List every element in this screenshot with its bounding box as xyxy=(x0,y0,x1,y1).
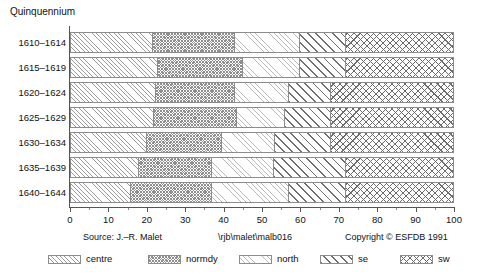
x-tick-minor xyxy=(243,208,244,210)
x-tick-major xyxy=(300,208,301,212)
chart-footer: Source: J.–R. Malet \rjb\malet\malb016 C… xyxy=(0,230,477,244)
bar-row xyxy=(70,157,454,178)
x-tick-minor xyxy=(320,208,321,210)
footer-file-path: \rjb\malet\malb016 xyxy=(218,230,292,244)
bar-segment-sw xyxy=(331,82,454,103)
bar-segment-centre xyxy=(70,32,153,53)
x-tick-label: 20 xyxy=(142,214,153,225)
bar-segment-normdy xyxy=(139,157,212,178)
bar-segment-se xyxy=(275,132,331,153)
bar-segment-normdy xyxy=(156,82,235,103)
x-tick-major xyxy=(108,208,109,212)
north-swatch-icon xyxy=(239,255,272,264)
bar-segment-north xyxy=(222,132,276,153)
footer-copyright: Copyright © ESFDB 1991 xyxy=(345,230,448,244)
x-tick-label: 40 xyxy=(218,214,229,225)
x-tick-major xyxy=(185,208,186,212)
y-axis-labels: 1610–16141615–16191620–16241625–16291630… xyxy=(0,30,66,205)
x-tick-label: 60 xyxy=(295,214,306,225)
x-tick-minor xyxy=(166,208,167,210)
bar-row xyxy=(70,107,454,128)
bar-segment-centre xyxy=(70,157,139,178)
bar-segment-centre xyxy=(70,82,156,103)
x-tick-label: 30 xyxy=(180,214,191,225)
bar-segment-sw xyxy=(331,107,454,128)
y-axis-label: 1640–1644 xyxy=(2,188,66,198)
centre-swatch-icon xyxy=(48,255,81,264)
y-axis-label: 1630–1634 xyxy=(2,138,66,148)
bar-row xyxy=(70,32,454,53)
legend-entry-centre[interactable]: centre xyxy=(48,253,112,265)
bar-segment-normdy xyxy=(158,57,242,78)
chart-title: Quinquennium xyxy=(10,6,75,18)
bar-segment-sw xyxy=(346,182,454,203)
bar-row xyxy=(70,182,454,203)
stacked-bar-chart: Quinquennium 1610–16141615–16191620–1624… xyxy=(0,0,477,276)
x-tick-major xyxy=(70,208,71,212)
x-tick-label: 70 xyxy=(334,214,345,225)
y-axis-label: 1610–1614 xyxy=(2,38,66,48)
legend-entry-sw[interactable]: sw xyxy=(400,253,450,265)
y-axis-label: 1615–1619 xyxy=(2,63,66,73)
x-tick-minor xyxy=(435,208,436,210)
bar-segment-se xyxy=(300,57,346,78)
y-axis-label: 1620–1624 xyxy=(2,88,66,98)
x-tick-label: 10 xyxy=(103,214,114,225)
bar-segment-sw xyxy=(346,157,454,178)
bar-segment-centre xyxy=(70,132,147,153)
x-tick-major xyxy=(377,208,378,212)
bar-row xyxy=(70,57,454,78)
bar-segment-north xyxy=(212,157,273,178)
bar-segment-north xyxy=(243,57,301,78)
bar-segment-se xyxy=(289,82,331,103)
x-tick-major xyxy=(339,208,340,212)
x-tick-minor xyxy=(281,208,282,210)
bar-segment-normdy xyxy=(154,107,237,128)
x-tick-major xyxy=(416,208,417,212)
bar-segment-normdy xyxy=(153,32,236,53)
bar-segment-se xyxy=(289,182,347,203)
legend-entry-north[interactable]: north xyxy=(239,253,299,265)
bar-segment-se xyxy=(285,107,331,128)
x-tick-major xyxy=(224,208,225,212)
legend-label: sw xyxy=(438,253,450,265)
x-tick-minor xyxy=(358,208,359,210)
bar-segment-north xyxy=(235,32,300,53)
bar-segment-se xyxy=(300,32,346,53)
bar-row xyxy=(70,132,454,153)
legend-label: centre xyxy=(86,253,112,265)
x-axis-tick-labels: 0102030405060708090100 xyxy=(0,214,477,226)
x-tick-label: 80 xyxy=(372,214,383,225)
x-tick-label: 50 xyxy=(257,214,268,225)
legend-label: normdy xyxy=(186,253,218,265)
bar-segment-se xyxy=(274,157,347,178)
se-swatch-icon xyxy=(320,255,353,264)
bar-segment-north xyxy=(237,107,285,128)
x-tick-minor xyxy=(128,208,129,210)
bar-segment-north xyxy=(212,182,289,203)
bar-segment-sw xyxy=(346,57,454,78)
x-tick-label: 100 xyxy=(446,214,462,225)
x-tick-major xyxy=(454,208,455,212)
y-axis-label: 1625–1629 xyxy=(2,113,66,123)
x-tick-major xyxy=(262,208,263,212)
chart-legend: centrenormdynorthsesw xyxy=(0,253,477,269)
bar-row xyxy=(70,82,454,103)
bar-segment-normdy xyxy=(147,132,222,153)
bar-segment-centre xyxy=(70,182,131,203)
x-tick-minor xyxy=(204,208,205,210)
legend-label: se xyxy=(358,253,368,265)
x-tick-minor xyxy=(89,208,90,210)
footer-source: Source: J.–R. Malet xyxy=(83,230,162,244)
x-tick-label: 90 xyxy=(410,214,421,225)
bar-segment-normdy xyxy=(131,182,212,203)
bar-segment-sw xyxy=(346,32,454,53)
normdy-swatch-icon xyxy=(148,255,181,264)
legend-entry-se[interactable]: se xyxy=(320,253,368,265)
x-tick-label: 0 xyxy=(67,214,72,225)
x-tick-minor xyxy=(396,208,397,210)
sw-swatch-icon xyxy=(400,255,433,264)
legend-entry-normdy[interactable]: normdy xyxy=(148,253,218,265)
bar-segment-sw xyxy=(331,132,454,153)
bar-segment-north xyxy=(235,82,289,103)
